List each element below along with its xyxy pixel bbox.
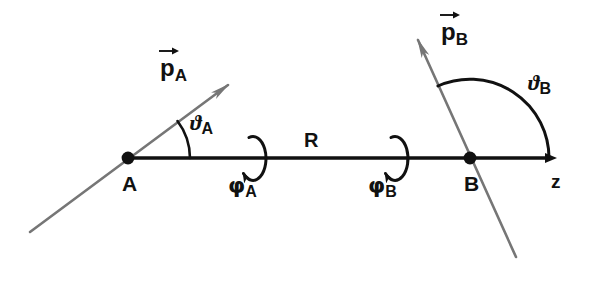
theta-b-symbol: ϑ bbox=[528, 70, 540, 95]
point-marker-A bbox=[122, 152, 135, 165]
vector-label-pB: pB bbox=[441, 20, 468, 48]
diagram-canvas bbox=[0, 0, 598, 282]
theta-a-arc bbox=[178, 121, 191, 158]
angle-label-theta-a: ϑA bbox=[190, 112, 213, 137]
vector-subscript-pA: A bbox=[175, 66, 187, 85]
axis-label-z: z bbox=[551, 172, 561, 191]
phi-a-subscript: A bbox=[245, 183, 257, 200]
vector-label-pA: pA bbox=[160, 56, 187, 84]
phi-a-symbol: φ bbox=[228, 173, 245, 198]
vector-accent-arrow-icon bbox=[159, 45, 179, 55]
theta-a-symbol: ϑ bbox=[190, 110, 202, 135]
phi-b-subscript: B bbox=[385, 183, 397, 200]
angle-label-phi-a: φA bbox=[228, 175, 257, 200]
angle-label-theta-b: ϑB bbox=[528, 72, 551, 97]
angle-label-phi-b: φB bbox=[368, 175, 397, 200]
vector-subscript-pB: B bbox=[456, 30, 468, 49]
phi-b-symbol: φ bbox=[368, 173, 385, 198]
vector-pB-line bbox=[418, 40, 516, 257]
distance-label-R: R bbox=[304, 130, 318, 150]
point-label-B: B bbox=[464, 173, 479, 194]
vector-accent-arrow-icon bbox=[440, 9, 460, 19]
theta-a-subscript: A bbox=[202, 120, 214, 137]
vector-symbol-pB: p bbox=[441, 18, 456, 45]
point-marker-B bbox=[464, 152, 477, 165]
theta-b-subscript: B bbox=[540, 80, 552, 97]
physics-vector-diagram: pA pB ϑA ϑB φA φB R A B z bbox=[0, 0, 598, 282]
point-label-A: A bbox=[122, 173, 137, 194]
vector-symbol-pA: p bbox=[160, 54, 175, 81]
